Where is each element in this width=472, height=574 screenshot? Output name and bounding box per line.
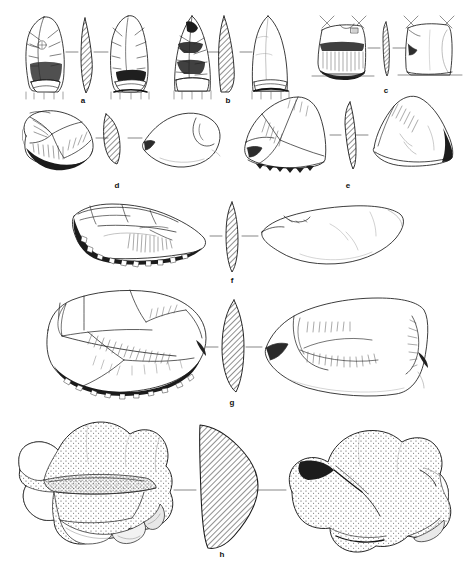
artifact-a: [26, 16, 149, 99]
artifact-g-ventral: [265, 298, 428, 396]
caption-label-a: a: [81, 97, 85, 105]
artifact-h-section: [200, 425, 258, 548]
artifact-g-section: [222, 300, 244, 392]
caption-label-f: f: [231, 277, 234, 285]
caption-label-e: e: [346, 182, 350, 190]
artifact-d: [22, 111, 220, 171]
artifact-h-ventral: [289, 430, 451, 552]
artifact-e-dorsal: [245, 97, 326, 173]
artifact-f-dorsal: [72, 204, 205, 267]
caption-label-b: b: [226, 97, 231, 105]
artifact-f-section: [226, 202, 238, 272]
artifact-c-ventral: [398, 16, 462, 75]
artifact-e-section: [345, 102, 356, 169]
artifact-d-dorsal: [22, 111, 93, 171]
artifact-h-dorsal: [19, 422, 173, 544]
caption-label-d: d: [115, 182, 120, 190]
artifact-d-ventral: [143, 113, 221, 167]
artifact-f: [72, 202, 403, 272]
caption-label-c: c: [384, 87, 388, 95]
caption-label-g: g: [230, 399, 235, 407]
artifact-f-ventral: [262, 206, 404, 264]
lithic-illustration-plate: a b c d e f g h: [0, 0, 472, 574]
artifact-b-section: [219, 16, 235, 92]
artifact-c-section: [383, 22, 389, 76]
artifact-d-section: [104, 114, 120, 164]
artifact-c: [312, 16, 462, 80]
artifact-b-dorsal: [174, 16, 211, 99]
artifact-h: [19, 422, 451, 552]
artifact-e: [245, 96, 453, 173]
artifact-g: [47, 290, 428, 399]
caption-label-h: h: [220, 551, 225, 559]
artifact-b-ventral: [252, 16, 289, 99]
artifact-g-dorsal: [47, 290, 206, 399]
artifact-e-ventral: [373, 96, 453, 166]
artifact-a-dorsal: [26, 17, 64, 99]
artifact-b: [174, 16, 289, 99]
artifact-a-section: [81, 18, 92, 93]
artifact-a-ventral: [111, 16, 150, 99]
artifact-c-dorsal: [312, 16, 374, 80]
figure-drawing: [0, 0, 472, 574]
